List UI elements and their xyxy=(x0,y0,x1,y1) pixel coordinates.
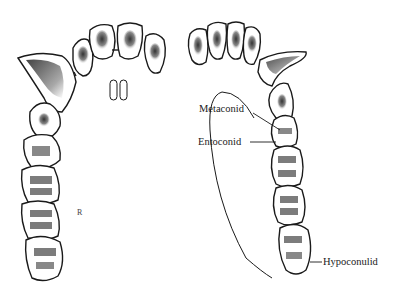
label-entoconid: Entoconid xyxy=(198,137,241,148)
artist-mark: R xyxy=(77,208,82,217)
right-premolar xyxy=(269,83,293,119)
label-metaconid: Metaconid xyxy=(199,104,244,115)
right-molars xyxy=(271,115,310,274)
dentition-diagram: Metaconid Entoconid Hypoconulid R xyxy=(0,0,403,287)
right-arch xyxy=(188,22,310,278)
left-molars xyxy=(22,135,63,281)
mandible-outline xyxy=(210,92,272,278)
incisive-foramina xyxy=(110,80,127,100)
left-incisors xyxy=(73,23,165,76)
left-arch xyxy=(18,23,165,281)
right-incisors xyxy=(188,22,260,65)
right-canine xyxy=(258,52,306,86)
label-hypoconulid: Hypoconulid xyxy=(323,257,378,268)
left-premolar xyxy=(30,103,61,138)
